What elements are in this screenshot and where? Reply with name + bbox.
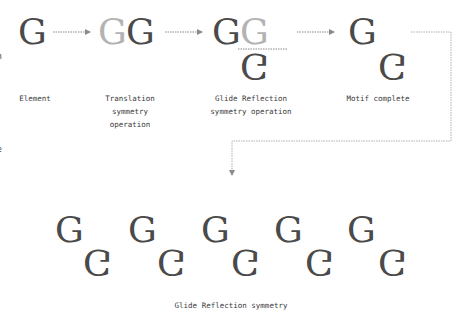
element-glyph: G [18,14,46,50]
step-label-translation: Translation symmetry operation [105,92,155,131]
step-label-glide-reflection: Glide Reflection symmetry operation [210,92,291,118]
glide-source-glyph: G [212,14,240,50]
pattern-glyph: G [347,212,375,248]
result-caption: Glide Reflection symmetry [175,299,288,312]
glide-reflection-diagram: n e G G G G G G G G Element Translation … [0,0,460,334]
pattern-glyph: G [55,212,83,248]
translated-glyph: G [126,14,154,50]
step-label-element: Element [19,92,51,105]
step-label-motif-complete: Motif complete [346,92,409,105]
pattern-reflected-glyph: G [83,244,111,280]
motif-reflected-glyph: G [378,48,406,84]
pattern-glyph: G [274,212,302,248]
pattern-reflected-glyph: G [231,244,259,280]
translated-ghost-glyph: G [98,14,126,50]
pattern-reflected-glyph: G [157,244,185,280]
glide-reflected-glyph: G [240,48,268,84]
motif-glyph: G [348,14,376,50]
pattern-glyph: G [201,212,229,248]
pattern-reflected-glyph: G [305,244,333,280]
glide-ghost-glyph: G [240,14,268,50]
pattern-reflected-glyph: G [378,244,406,280]
pattern-glyph: G [128,212,156,248]
